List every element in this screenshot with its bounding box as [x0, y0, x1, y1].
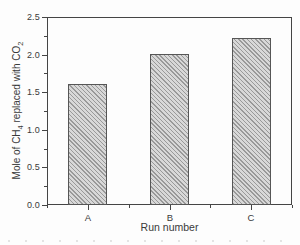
y-minor-tick — [44, 36, 47, 37]
y-major-tick — [42, 167, 47, 168]
x-major-tick — [88, 205, 89, 210]
y-major-tick — [42, 130, 47, 131]
y-tick-label: 2.5 — [0, 11, 40, 23]
x-tick-label: B — [155, 212, 185, 223]
x-minor-tick — [292, 205, 293, 208]
x-minor-tick — [129, 205, 130, 208]
x-tick-label: A — [73, 212, 103, 223]
cropped-caption-remnant — [8, 240, 292, 242]
y-minor-tick — [44, 186, 47, 187]
x-tick-label: C — [236, 212, 266, 223]
y-axis-title-subscript-co2: 2 — [16, 42, 25, 46]
y-major-tick — [42, 92, 47, 93]
y-tick-label: 2.0 — [0, 49, 40, 61]
bar-b — [150, 54, 189, 205]
y-tick-label: 0.5 — [0, 161, 40, 173]
bar-chart-figure: Mole of CH4 replaced with CO2 Run number… — [0, 0, 300, 245]
y-major-tick — [42, 55, 47, 56]
x-minor-tick — [210, 205, 211, 208]
y-tick-label: 1.0 — [0, 124, 40, 136]
x-minor-tick — [47, 205, 48, 208]
x-major-tick — [170, 205, 171, 210]
y-tick-label: 0.0 — [0, 199, 40, 211]
y-minor-tick — [44, 111, 47, 112]
y-major-tick — [42, 17, 47, 18]
x-major-tick — [251, 205, 252, 210]
y-minor-tick — [44, 149, 47, 150]
y-tick-label: 1.5 — [0, 86, 40, 98]
y-axis-title: Mole of CH4 replaced with CO2 — [10, 11, 23, 211]
bar-a — [68, 84, 107, 205]
y-minor-tick — [44, 73, 47, 74]
bar-c — [232, 38, 271, 205]
